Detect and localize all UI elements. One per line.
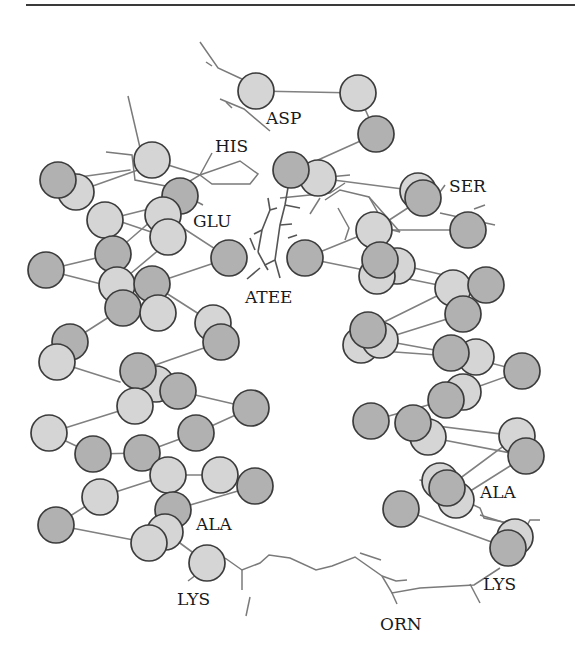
side-chain xyxy=(200,161,258,184)
atoms xyxy=(28,73,544,581)
dark-atom xyxy=(508,438,544,474)
ligand-bond xyxy=(288,235,297,238)
ligand-bond xyxy=(268,198,270,210)
dark-atom xyxy=(362,242,398,278)
ligand-bond xyxy=(250,238,255,250)
dark-atom xyxy=(428,382,464,418)
dark-atom xyxy=(358,116,394,152)
side-chain xyxy=(392,593,397,604)
label-lys-right: LYS xyxy=(483,574,516,594)
dark-atom xyxy=(450,212,486,248)
molecular-diagram: ASPHISSERGLUATEEALAALALYSLYSORN xyxy=(0,0,575,666)
dark-atom xyxy=(429,470,465,506)
dark-atom xyxy=(237,468,273,504)
label-ala-right: ALA xyxy=(479,482,517,502)
dark-atom xyxy=(445,296,481,332)
dark-atom xyxy=(287,240,323,276)
light-atom xyxy=(131,525,167,561)
label-atee: ATEE xyxy=(244,287,293,307)
ligand-bond xyxy=(247,268,260,279)
light-atom xyxy=(134,142,170,178)
label-asp: ASP xyxy=(265,108,301,128)
side-chain xyxy=(310,198,320,214)
side-chain xyxy=(128,96,141,152)
ligand-bond xyxy=(280,224,292,225)
light-atom xyxy=(87,202,123,238)
dark-atom xyxy=(75,436,111,472)
light-atom xyxy=(39,344,75,380)
light-atom xyxy=(150,457,186,493)
ligand-bond xyxy=(275,260,280,278)
dark-atom xyxy=(468,267,504,303)
side-chain xyxy=(474,205,485,209)
side-chain xyxy=(338,208,349,240)
light-atom xyxy=(340,75,376,111)
side-chain xyxy=(440,185,445,192)
dark-atom xyxy=(40,162,76,198)
dark-atom xyxy=(383,491,419,527)
light-atom xyxy=(82,479,118,515)
dark-atom xyxy=(350,312,386,348)
dark-atom xyxy=(178,415,214,451)
dark-atom xyxy=(211,240,247,276)
dark-atom xyxy=(38,507,74,543)
light-atom xyxy=(189,545,225,581)
dark-atom xyxy=(203,324,239,360)
dark-atom xyxy=(433,335,469,371)
light-atom xyxy=(202,457,238,493)
label-his: HIS xyxy=(215,136,248,156)
light-atom xyxy=(140,295,176,331)
side-chain xyxy=(382,576,407,581)
dark-atom xyxy=(233,390,269,426)
dark-atom xyxy=(504,353,540,389)
side-chain xyxy=(360,553,381,560)
label-glu: GLU xyxy=(193,211,231,231)
side-chain xyxy=(246,597,250,616)
ligand-bond xyxy=(285,205,300,208)
light-atom xyxy=(31,415,67,451)
light-atom xyxy=(150,219,186,255)
side-chain xyxy=(470,584,480,603)
dark-atom xyxy=(120,353,156,389)
label-orn: ORN xyxy=(380,614,422,634)
ligand-bond xyxy=(270,208,277,210)
dark-atom xyxy=(490,530,526,566)
dark-atom xyxy=(160,373,196,409)
dark-atom xyxy=(353,403,389,439)
side-chain xyxy=(206,62,212,66)
label-ser: SER xyxy=(449,176,487,196)
dark-atom xyxy=(105,290,141,326)
dark-atom xyxy=(395,405,431,441)
dark-atom xyxy=(28,252,64,288)
dark-atom xyxy=(405,180,441,216)
side-chain xyxy=(225,555,500,593)
label-ala-left: ALA xyxy=(195,514,233,534)
dark-atom xyxy=(273,152,309,188)
label-lys-left: LYS xyxy=(177,589,210,609)
ligand-bond xyxy=(265,265,268,270)
light-atom xyxy=(238,73,274,109)
light-atom xyxy=(117,388,153,424)
